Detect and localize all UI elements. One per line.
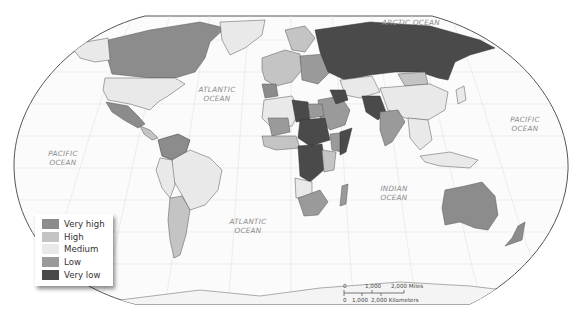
label-indian-ocean-2: OCEAN (380, 193, 407, 202)
label-pacific-ocean-east-2: OCEAN (511, 124, 538, 133)
label-arctic-ocean: ARCTIC OCEAN (381, 18, 440, 27)
region-egypt (308, 104, 324, 118)
legend-item-low: Low (42, 256, 113, 269)
map-legend: Very high High Medium Low Very low (35, 214, 113, 286)
scale-bar: 0 1,000 2,000 Miles 0 1,000 2,000 Kilome… (339, 281, 449, 311)
legend-swatch-very-low (42, 270, 59, 280)
legend-swatch-high (42, 232, 59, 242)
legend-item-high: High (42, 231, 113, 244)
legend-label: High (64, 232, 84, 242)
label-atlantic-ocean-south-2: OCEAN (234, 226, 261, 235)
legend-swatch-medium (42, 244, 59, 254)
legend-item-very-low: Very low (42, 268, 113, 281)
label-pacific-ocean-west-2: OCEAN (49, 158, 76, 167)
label-pacific-ocean-west: PACIFIC (48, 149, 77, 158)
scale-miles-2000: 2,000 Miles (391, 283, 423, 289)
label-atlantic-ocean-north: ATLANTIC (197, 85, 235, 94)
region-east-africa (322, 150, 336, 172)
region-iberia (262, 84, 278, 98)
scale-miles-1000: 1,000 (365, 283, 381, 289)
label-atlantic-ocean-south: ATLANTIC (228, 217, 266, 226)
legend-swatch-low (42, 257, 59, 267)
scale-km-1000: 1,000 (352, 297, 368, 303)
legend-item-very-high: Very high (42, 218, 113, 231)
legend-item-medium: Medium (42, 243, 113, 256)
scale-km-2000: 2,000 Kilometers (371, 297, 419, 303)
legend-swatch-very-high (42, 219, 59, 229)
scale-km-0: 0 (343, 297, 347, 303)
legend-label: Medium (64, 244, 98, 254)
legend-label: Very low (64, 270, 101, 280)
label-indian-ocean: INDIAN (380, 184, 408, 193)
label-atlantic-ocean-north-2: OCEAN (203, 94, 230, 103)
scale-miles-0: 0 (343, 283, 347, 289)
legend-label: Low (64, 257, 81, 267)
legend-label: Very high (64, 219, 105, 229)
label-pacific-ocean-east: PACIFIC (510, 115, 539, 124)
